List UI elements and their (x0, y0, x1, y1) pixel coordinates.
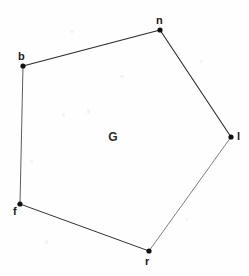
scan-speck (45, 240, 48, 244)
scan-speck (70, 30, 74, 33)
polygon-edge-n-l (160, 30, 231, 137)
diagram-svg (0, 0, 249, 276)
vertex-label-r: r (145, 256, 149, 267)
polygon-edge-r-f (20, 204, 149, 251)
polygon-diagram-canvas: nblfr G (0, 0, 249, 276)
scan-speck (200, 60, 203, 63)
vertex-dot-l (228, 134, 233, 139)
scan-speck (87, 109, 90, 114)
vertex-dot-f (17, 201, 22, 206)
vertex-dot-r (146, 248, 151, 253)
scan-speck (185, 218, 188, 221)
interior-region-label: G (108, 131, 117, 143)
vertex-label-b: b (18, 51, 25, 62)
vertex-label-f: f (13, 206, 17, 217)
edges-group (20, 30, 231, 251)
vertex-label-l: l (237, 131, 240, 142)
scan-speck (120, 75, 124, 78)
vertex-dot-n (157, 27, 162, 32)
polygon-edge-f-b (20, 66, 23, 204)
scan-speck (30, 160, 33, 163)
polygon-edge-l-r (149, 137, 231, 251)
scan-speck (62, 113, 65, 117)
vertex-dot-b (20, 63, 25, 68)
vertex-label-n: n (156, 15, 163, 26)
polygon-edge-b-n (23, 30, 160, 66)
